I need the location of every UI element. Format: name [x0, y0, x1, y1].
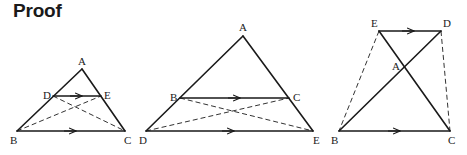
segment-DC — [53, 96, 125, 131]
label-B: B — [331, 134, 338, 146]
label-C: C — [124, 134, 131, 146]
label-E: E — [371, 17, 378, 29]
label-B: B — [170, 91, 177, 103]
figure-2-triangle-extended: A B C D E — [139, 21, 320, 146]
label-A: A — [78, 55, 86, 67]
segment-DC — [441, 31, 450, 131]
label-D: D — [443, 17, 451, 29]
figure-1-triangle-midline: A D E B C — [10, 55, 131, 146]
label-E: E — [313, 134, 320, 146]
label-C: C — [448, 134, 455, 146]
label-E: E — [104, 89, 111, 101]
label-D: D — [139, 134, 147, 146]
proof-diagrams: A D E B C A B C D E E D A B C — [0, 0, 467, 155]
segment-EB — [339, 31, 379, 131]
label-B: B — [10, 134, 17, 146]
segment-BE — [17, 96, 101, 131]
segment-DC — [146, 98, 289, 131]
label-D: D — [43, 89, 51, 101]
label-A: A — [392, 60, 400, 72]
segment-AD — [146, 36, 243, 131]
label-A: A — [239, 21, 247, 33]
figure-3-bowtie: E D A B C — [331, 17, 455, 146]
label-C: C — [293, 91, 300, 103]
